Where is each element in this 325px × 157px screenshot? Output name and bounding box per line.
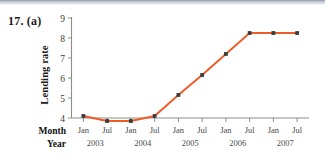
x-axis-year-label: 2005 bbox=[182, 138, 199, 148]
line-chart-svg: Lending rate 9 8 7 6 5 4 bbox=[0, 5, 325, 157]
data-point-marker bbox=[200, 73, 204, 77]
data-point-marker bbox=[176, 93, 180, 97]
x-axis-month-label: Jan bbox=[220, 125, 232, 135]
row-label-month: Month bbox=[39, 126, 67, 136]
y-axis-title: Lending rate bbox=[39, 45, 50, 104]
x-axis-month-label: Jan bbox=[125, 125, 137, 135]
y-tick-label-5: 5 bbox=[60, 94, 65, 104]
data-point-marker bbox=[81, 114, 85, 118]
x-axis-month-label: Jul bbox=[292, 125, 303, 135]
x-axis-year-label: 2007 bbox=[277, 138, 294, 148]
x-axis-year-label: 2003 bbox=[87, 138, 104, 148]
x-axis-year-label: 2004 bbox=[134, 138, 152, 148]
x-axis-year-labels: 20032004200520062007 bbox=[87, 138, 294, 148]
x-axis-month-label: Jul bbox=[197, 125, 208, 135]
row-label-year: Year bbox=[47, 139, 67, 149]
data-point-marker bbox=[105, 119, 109, 123]
data-point-marker bbox=[295, 31, 299, 35]
data-point-marker bbox=[271, 31, 275, 35]
y-tick-label-7: 7 bbox=[60, 54, 65, 64]
x-axis-month-label: Jan bbox=[78, 125, 90, 135]
data-series-line bbox=[83, 33, 297, 121]
x-axis-month-label: Jul bbox=[102, 125, 113, 135]
y-tick-label-8: 8 bbox=[60, 34, 65, 44]
data-point-marker bbox=[248, 31, 252, 35]
x-axis-month-label: Jul bbox=[150, 125, 161, 135]
x-axis-month-label: Jan bbox=[173, 125, 185, 135]
data-point-markers bbox=[81, 31, 299, 123]
y-tick-label-4: 4 bbox=[60, 114, 65, 124]
data-point-marker bbox=[153, 114, 157, 118]
figure-container: 17. (a) Lending rate 9 8 7 6 5 bbox=[0, 5, 325, 157]
y-tick-label-9: 9 bbox=[60, 14, 65, 24]
y-tick-label-6: 6 bbox=[60, 74, 65, 84]
data-point-marker bbox=[129, 119, 133, 123]
x-axis-month-labels: JanJulJanJulJanJulJanJulJanJul bbox=[78, 125, 303, 135]
x-axis-month-label: Jan bbox=[268, 125, 280, 135]
page-top-rule-edge bbox=[0, 0, 325, 1]
data-point-marker bbox=[224, 52, 228, 56]
x-axis-month-label: Jul bbox=[245, 125, 256, 135]
x-axis-year-label: 2006 bbox=[229, 138, 246, 148]
chart-plot-area: Lending rate 9 8 7 6 5 4 bbox=[0, 5, 325, 157]
